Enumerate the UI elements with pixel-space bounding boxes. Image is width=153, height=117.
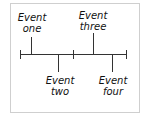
event-three-line2: three xyxy=(73,21,113,32)
axis-tick-end xyxy=(126,50,127,59)
event-four-stem xyxy=(112,55,113,72)
event-one-label: Event one xyxy=(12,12,52,34)
event-three-stem xyxy=(93,33,94,55)
event-two-stem xyxy=(58,55,59,72)
event-three-line1: Event xyxy=(73,10,113,21)
event-four-label: Event four xyxy=(93,75,133,97)
event-one-stem xyxy=(31,37,32,55)
event-four-line2: four xyxy=(93,86,133,97)
event-three-label: Event three xyxy=(73,10,113,32)
axis-tick-mid xyxy=(73,50,74,59)
event-two-line1: Event xyxy=(40,75,80,86)
event-two-line2: two xyxy=(40,86,80,97)
event-four-line1: Event xyxy=(93,75,133,86)
event-one-line1: Event xyxy=(12,12,52,23)
event-two-label: Event two xyxy=(40,75,80,97)
event-one-line2: one xyxy=(12,23,52,34)
axis-tick-start xyxy=(20,50,21,59)
